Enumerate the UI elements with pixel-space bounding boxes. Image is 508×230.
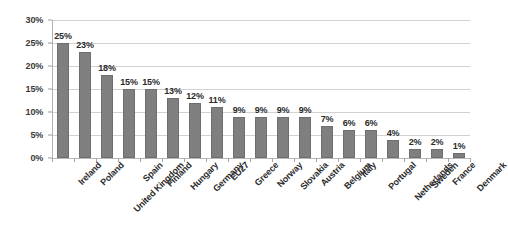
y-axis-tick-label: 15% [26, 84, 43, 94]
bar-slot[interactable]: 1% [448, 20, 470, 158]
bar-value-label: 13% [164, 86, 181, 96]
bar-slot[interactable]: 15% [118, 20, 140, 158]
bar-value-label: 12% [186, 91, 203, 101]
bar-slot[interactable]: 18% [96, 20, 118, 158]
bar[interactable] [233, 117, 245, 158]
y-axis-tick-label: 5% [30, 130, 43, 140]
bar[interactable] [145, 89, 157, 158]
bar-value-label: 25% [54, 31, 71, 41]
y-axis-tick-label: 10% [26, 107, 43, 117]
bar-slot[interactable]: 9% [228, 20, 250, 158]
bar-slot[interactable]: 12% [184, 20, 206, 158]
bar-value-label: 6% [343, 118, 356, 128]
bar[interactable] [167, 98, 179, 158]
bar-slot[interactable]: 15% [140, 20, 162, 158]
bar-series: 25%23%18%15%15%13%12%11%9%9%9%9%7%6%6%4%… [52, 20, 470, 158]
bar[interactable] [299, 117, 311, 158]
bar-slot[interactable]: 6% [338, 20, 360, 158]
bar[interactable] [431, 149, 443, 158]
bar-value-label: 2% [409, 137, 422, 147]
bar[interactable] [79, 52, 91, 158]
bar-value-label: 9% [277, 105, 290, 115]
bar-slot[interactable]: 25% [52, 20, 74, 158]
bar[interactable] [387, 140, 399, 158]
bar-slot[interactable]: 9% [294, 20, 316, 158]
bar-value-label: 4% [387, 128, 400, 138]
bar-value-label: 7% [321, 114, 334, 124]
bar-slot[interactable]: 2% [426, 20, 448, 158]
x-axis-labels: IrelandPolandUnited KingdomSpainFinlandH… [52, 160, 470, 230]
bar[interactable] [189, 103, 201, 158]
bar-value-label: 9% [255, 105, 268, 115]
bar-slot[interactable]: 13% [162, 20, 184, 158]
bar[interactable] [211, 107, 223, 158]
bar-slot[interactable]: 11% [206, 20, 228, 158]
y-axis: 0%5%10%15%20%25%30% [0, 20, 48, 158]
x-axis-category-label: Poland [98, 160, 125, 187]
y-axis-tick-label: 30% [26, 15, 43, 25]
bar-slot[interactable]: 7% [316, 20, 338, 158]
bar[interactable] [255, 117, 267, 158]
bar-value-label: 18% [98, 63, 115, 73]
y-axis-tick-label: 25% [26, 38, 43, 48]
bar-slot[interactable]: 2% [404, 20, 426, 158]
bar[interactable] [365, 130, 377, 158]
bar-value-label: 6% [365, 118, 378, 128]
bar-value-label: 23% [76, 40, 93, 50]
bar-value-label: 1% [453, 141, 466, 151]
x-axis-category-label: Denmark [475, 160, 508, 193]
bar[interactable] [277, 117, 289, 158]
bar-value-label: 9% [233, 105, 246, 115]
bar[interactable] [321, 126, 333, 158]
bar-slot[interactable]: 9% [250, 20, 272, 158]
bar-slot[interactable]: 9% [272, 20, 294, 158]
bar[interactable] [343, 130, 355, 158]
x-axis-category-label: Portugal [386, 160, 418, 192]
bar-value-label: 15% [142, 77, 159, 87]
x-axis-category-label: EU27 [228, 160, 250, 182]
plot-area: 25%23%18%15%15%13%12%11%9%9%9%9%7%6%6%4%… [52, 20, 470, 158]
bar-slot[interactable]: 4% [382, 20, 404, 158]
bar-slot[interactable]: 23% [74, 20, 96, 158]
bar-value-label: 11% [209, 95, 226, 105]
bar-value-label: 9% [299, 105, 312, 115]
y-axis-tick-label: 0% [30, 153, 43, 163]
bar[interactable] [101, 75, 113, 158]
bar-value-label: 2% [431, 137, 444, 147]
bar[interactable] [57, 43, 69, 158]
bar[interactable] [409, 149, 421, 158]
bar[interactable] [123, 89, 135, 158]
y-axis-tick-label: 20% [26, 61, 43, 71]
x-axis-category-label: Ireland [76, 160, 103, 187]
bar-value-label: 15% [120, 77, 137, 87]
bar-slot[interactable]: 6% [360, 20, 382, 158]
